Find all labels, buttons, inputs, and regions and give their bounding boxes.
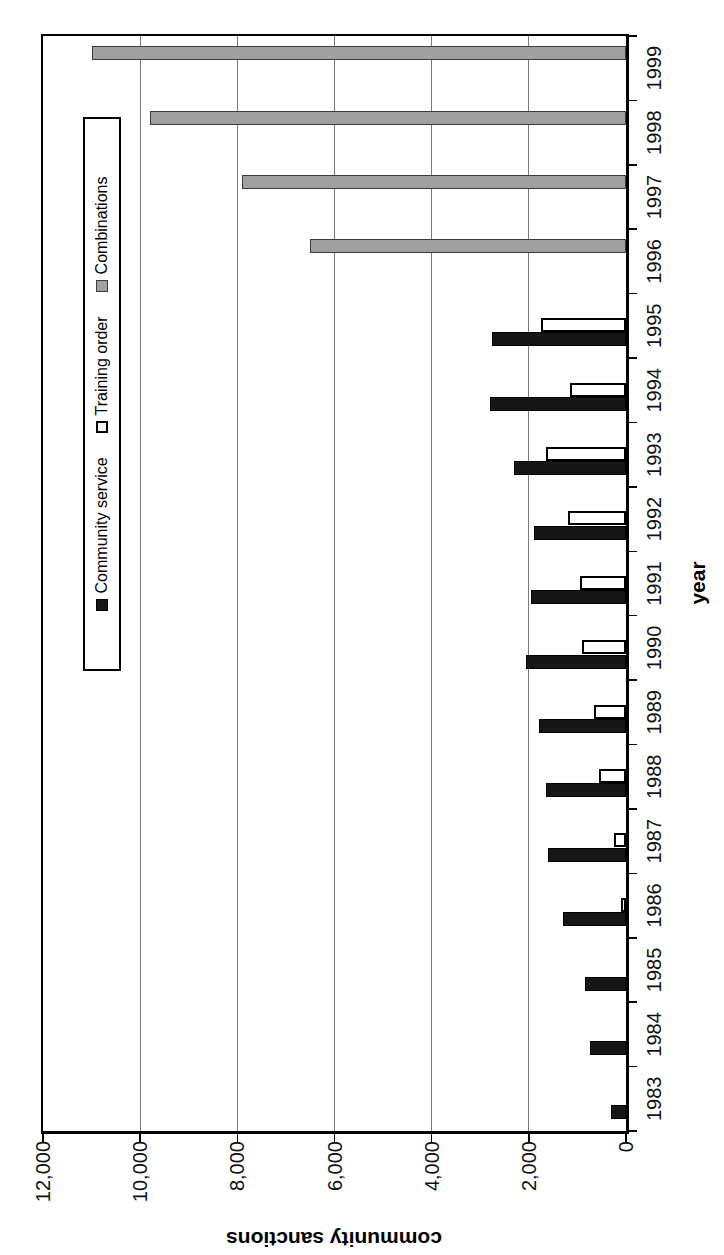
x-tick-label-1986: 1986 xyxy=(642,873,666,937)
bar-training-order-1987 xyxy=(614,833,626,847)
bar-community-service-1994 xyxy=(490,397,626,411)
bar-combinations-1999 xyxy=(92,46,626,60)
x-tick-label-1992: 1992 xyxy=(642,487,666,551)
x-tick-label-1983: 1983 xyxy=(642,1067,666,1131)
x-tick-7 xyxy=(629,679,637,681)
y-tick-label-4,000: 4,000 xyxy=(420,1141,444,1231)
x-tick-label-1991: 1991 xyxy=(642,551,666,615)
legend-marker-combinations xyxy=(96,280,108,292)
x-tick-label-1988: 1988 xyxy=(642,745,666,809)
x-tick-5 xyxy=(629,808,637,810)
bar-community-service-1993 xyxy=(514,461,626,475)
x-tick-4 xyxy=(629,873,637,875)
y-tick-label-8,000: 8,000 xyxy=(225,1141,249,1231)
bar-community-service-1990 xyxy=(526,655,626,669)
x-tick-label-1999: 1999 xyxy=(642,36,666,100)
bar-training-order-1991 xyxy=(580,576,626,590)
bar-combinations-1997 xyxy=(242,175,626,189)
bar-training-order-1995 xyxy=(541,318,626,332)
legend-label-training-order: Training order xyxy=(93,316,111,415)
gridline-10000 xyxy=(140,36,141,1131)
legend-item-combinations: Combinations xyxy=(93,177,111,293)
y-tick-label-0: 0 xyxy=(614,1141,638,1231)
x-tick-11 xyxy=(629,422,637,424)
bar-training-order-1986 xyxy=(621,898,626,912)
x-tick-12 xyxy=(629,357,637,359)
y-axis-line xyxy=(41,1131,629,1134)
gridline-2000 xyxy=(528,36,529,1131)
bar-community-service-1991 xyxy=(531,590,626,604)
bar-training-order-1989 xyxy=(594,705,626,719)
scanned-figure-page: 02,0004,0006,0008,00010,00012,000 198319… xyxy=(0,0,724,1255)
legend-marker-training-order xyxy=(96,421,108,433)
x-tick-label-1985: 1985 xyxy=(642,938,666,1002)
plot-frame-top xyxy=(41,34,43,1134)
y-tick-label-2,000: 2,000 xyxy=(517,1141,541,1231)
x-tick-1 xyxy=(629,1066,637,1068)
bar-community-service-1986 xyxy=(563,912,626,926)
x-tick-label-1989: 1989 xyxy=(642,680,666,744)
x-tick-label-1998: 1998 xyxy=(642,100,666,164)
bar-community-service-1992 xyxy=(534,526,626,540)
x-tick-0 xyxy=(629,1130,637,1132)
bar-combinations-1996 xyxy=(310,239,626,253)
bar-community-service-1987 xyxy=(548,848,626,862)
x-tick-2 xyxy=(629,1001,637,1003)
x-tick-label-1984: 1984 xyxy=(642,1002,666,1066)
bar-training-order-1993 xyxy=(546,447,626,461)
bar-community-service-1983 xyxy=(611,1105,626,1119)
bar-community-service-1984 xyxy=(590,1041,626,1055)
bar-combinations-1998 xyxy=(150,111,626,125)
gridline-8000 xyxy=(237,36,238,1131)
x-tick-label-1995: 1995 xyxy=(642,294,666,358)
x-tick-6 xyxy=(629,744,637,746)
x-tick-13 xyxy=(629,293,637,295)
x-tick-9 xyxy=(629,551,637,553)
y-tick-label-6,000: 6,000 xyxy=(323,1141,347,1231)
bar-community-service-1995 xyxy=(492,332,626,346)
x-tick-17 xyxy=(629,35,637,37)
x-tick-14 xyxy=(629,229,637,231)
x-tick-label-1993: 1993 xyxy=(642,422,666,486)
x-tick-label-1987: 1987 xyxy=(642,809,666,873)
x-tick-label-1997: 1997 xyxy=(642,165,666,229)
gridline-6000 xyxy=(334,36,335,1131)
x-tick-16 xyxy=(629,100,637,102)
bar-community-service-1989 xyxy=(539,719,626,733)
legend-item-training-order: Training order xyxy=(93,316,111,433)
y-axis-title: community sanctions xyxy=(184,1227,484,1251)
bar-training-order-1990 xyxy=(582,640,626,654)
bar-training-order-1992 xyxy=(568,511,626,525)
bar-training-order-1994 xyxy=(570,383,626,397)
bar-training-order-1988 xyxy=(599,769,626,783)
x-tick-label-1990: 1990 xyxy=(642,616,666,680)
x-tick-10 xyxy=(629,486,637,488)
x-tick-label-1996: 1996 xyxy=(642,229,666,293)
bar-chart: 02,0004,0006,0008,00010,00012,000 198319… xyxy=(0,0,724,1255)
x-tick-8 xyxy=(629,615,637,617)
legend: Community serviceTraining orderCombinati… xyxy=(83,117,121,671)
x-axis-line xyxy=(626,34,629,1134)
legend-label-combinations: Combinations xyxy=(93,177,111,275)
plot-frame-right xyxy=(41,34,629,36)
x-tick-label-1994: 1994 xyxy=(642,358,666,422)
x-tick-15 xyxy=(629,164,637,166)
x-axis-title: year xyxy=(686,463,710,703)
y-tick-label-12,000: 12,000 xyxy=(31,1141,55,1231)
gridline-4000 xyxy=(431,36,432,1131)
legend-label-community-service: Community service xyxy=(93,457,111,593)
x-tick-3 xyxy=(629,937,637,939)
bar-community-service-1985 xyxy=(585,977,626,991)
bar-community-service-1988 xyxy=(546,783,626,797)
legend-marker-community-service xyxy=(96,599,108,611)
y-tick-label-10,000: 10,000 xyxy=(128,1141,152,1231)
legend-item-community-service: Community service xyxy=(93,457,111,611)
